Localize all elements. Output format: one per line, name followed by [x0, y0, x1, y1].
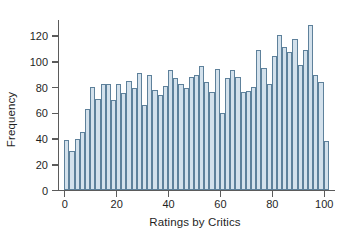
x-tick: 80 [272, 191, 273, 197]
x-tick-label: 100 [315, 198, 333, 210]
y-tick-label: 40 [36, 133, 48, 145]
y-axis-label: Frequency [0, 0, 22, 239]
y-tick: 80 [52, 87, 58, 88]
x-tick: 20 [116, 191, 117, 197]
x-tick-label: 80 [266, 198, 278, 210]
y-tick-label: 80 [36, 82, 48, 94]
y-tick: 0 [52, 190, 58, 191]
y-tick: 100 [52, 61, 58, 62]
x-tick: 60 [220, 191, 221, 197]
y-tick-label: 0 [42, 185, 48, 197]
y-tick-label: 20 [36, 159, 48, 171]
x-tick-label: 40 [162, 198, 174, 210]
x-tick-label: 0 [62, 198, 68, 210]
y-tick-label: 120 [30, 30, 48, 42]
y-tick: 60 [52, 113, 58, 114]
plot-area [59, 20, 334, 190]
x-tick-label: 20 [111, 198, 123, 210]
y-tick: 40 [52, 138, 58, 139]
y-tick-label: 60 [36, 107, 48, 119]
x-tick: 0 [64, 191, 65, 197]
y-tick: 120 [52, 35, 58, 36]
x-tick: 100 [324, 191, 325, 197]
x-tick-label: 60 [214, 198, 226, 210]
x-axis-label: Ratings by Critics [59, 216, 331, 228]
x-tick: 40 [168, 191, 169, 197]
histogram-figure: Frequency 020406080100120 020406080100 R… [0, 0, 356, 239]
y-tick: 20 [52, 164, 58, 165]
histogram-bar [324, 141, 329, 190]
y-tick-label: 100 [30, 56, 48, 68]
